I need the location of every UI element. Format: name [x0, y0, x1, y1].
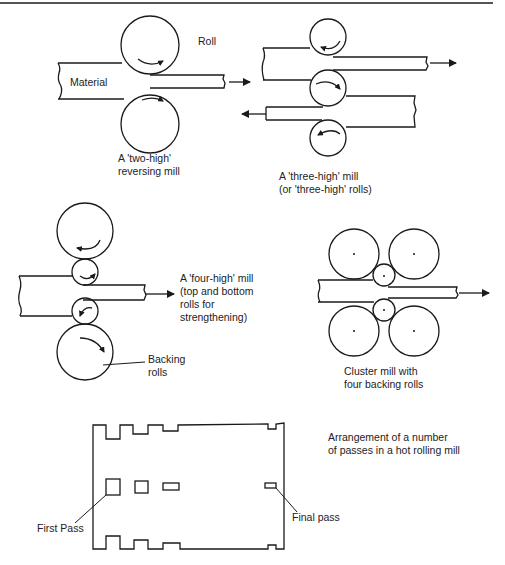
four-high-caption-2: (top and bottom — [180, 285, 254, 298]
backing-rolls-label-1: Backing — [148, 353, 185, 366]
backing-rolls-label-2: rolls — [148, 366, 167, 379]
three-high-caption-2: (or 'three-high' rolls) — [279, 183, 372, 196]
passes-caption-2: of passes in a hot rolling mill — [328, 444, 460, 457]
four-high-caption-3: rolls for — [180, 298, 214, 311]
bottom-roll — [121, 95, 179, 153]
cluster-caption-1: Cluster mill with — [344, 365, 418, 378]
four-high-caption-1: A 'four-high' mill — [180, 272, 253, 285]
first-pass-label: First Pass — [37, 522, 84, 535]
first-pass-opening — [106, 479, 120, 495]
cluster-caption-2: four backing rolls — [344, 378, 423, 391]
three-high-mill — [242, 19, 456, 156]
cluster-mill — [318, 229, 489, 356]
final-pass-opening — [265, 483, 276, 488]
two-high-caption-1: A 'two-high' — [118, 152, 171, 165]
upper-work-roll — [72, 259, 98, 285]
lower-backing-roll — [57, 324, 113, 380]
lower-work-roll — [72, 298, 98, 324]
pass-arrangement — [75, 423, 297, 549]
three-high-caption-1: A 'three-high' mill — [279, 170, 358, 183]
two-high-caption-2: reversing mill — [118, 165, 180, 178]
material-label: Material — [70, 76, 107, 89]
four-high-caption-4: strengthening) — [180, 311, 247, 324]
passes-caption-1: Arrangement of a number — [328, 431, 448, 444]
final-pass-label: Final pass — [292, 511, 340, 524]
roll-label: Roll — [198, 35, 216, 48]
upper-backing-roll — [57, 203, 113, 259]
top-roll — [121, 16, 179, 74]
